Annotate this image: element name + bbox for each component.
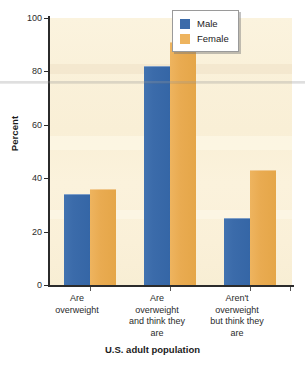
y-tick-label-80: 80	[2, 66, 42, 76]
x-tick-mark-3	[250, 287, 251, 291]
plot-area	[50, 18, 292, 285]
x-category-label-2-line3: and think they	[114, 316, 200, 328]
legend-label-female: Female	[197, 33, 229, 44]
x-category-label-3-line2: overweight	[194, 305, 280, 317]
x-category-label-3-line4: are	[194, 328, 280, 340]
y-tick-label-100: 100	[2, 13, 42, 23]
legend-label-male: Male	[197, 18, 218, 29]
x-tick-mark-1	[90, 287, 91, 291]
x-category-label-2-line1: Are	[114, 293, 200, 305]
y-tick-label-0: 0	[2, 280, 42, 290]
bar-female-arent-overweight-but-think	[250, 170, 276, 285]
bar-male-are-overweight-and-think	[144, 66, 170, 285]
bar-male-arent-overweight-but-think	[224, 218, 250, 285]
bar-female-are-overweight	[90, 189, 116, 285]
x-category-label-2-line4: are	[114, 328, 200, 340]
x-category-label-3-line3: but think they	[194, 316, 280, 328]
legend-item-female: Female	[180, 31, 229, 46]
legend-swatch-male-icon	[180, 19, 190, 29]
legend: Male Female	[172, 10, 239, 52]
x-category-label-1-line2: overweight	[34, 305, 120, 317]
bar-female-are-overweight-and-think	[170, 42, 196, 285]
y-axis-line	[48, 16, 50, 287]
x-category-label-3: Aren't overweight but think they are	[194, 293, 280, 339]
bar-male-are-overweight	[64, 194, 90, 285]
legend-swatch-female-icon	[180, 34, 190, 44]
x-category-label-3-line1: Aren't	[194, 293, 280, 305]
x-category-label-2-line2: overweight	[114, 305, 200, 317]
bar-chart: Percent 100 80 60 40 20 0 Male	[0, 0, 305, 366]
x-category-label-1-line1: Are	[34, 293, 120, 305]
x-category-label-2: Are overweight and think they are	[114, 293, 200, 339]
y-tick-label-20: 20	[2, 227, 42, 237]
legend-item-male: Male	[180, 16, 229, 31]
x-axis-line	[48, 285, 294, 287]
y-axis-title: Percent	[9, 104, 20, 164]
x-tick-mark-2	[170, 287, 171, 291]
y-tick-label-40: 40	[2, 173, 42, 183]
x-category-label-1: Are overweight	[34, 293, 120, 316]
y-tick-label-60: 60	[2, 120, 42, 130]
x-axis-title: U.S. adult population	[0, 344, 305, 355]
x-tick-mark-4	[290, 287, 291, 291]
